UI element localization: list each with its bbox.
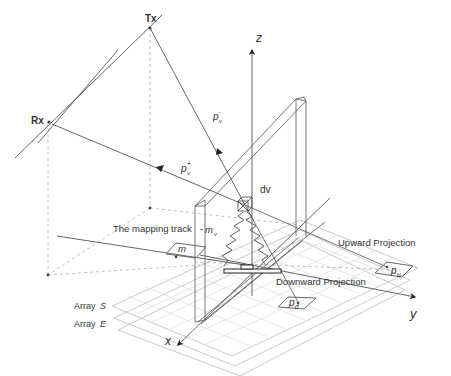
voxel-cube	[238, 197, 252, 211]
wall-structure	[195, 97, 325, 324]
array-s-label: Array S	[74, 301, 106, 311]
svg-text:Array: Array	[74, 319, 96, 329]
z-axis-label: z	[255, 31, 262, 45]
svg-text:The mapping track: The mapping track	[113, 223, 192, 234]
downward-projection-ray	[245, 205, 298, 302]
mapping-track-label: The mapping track - m v	[113, 223, 218, 237]
rx-point	[47, 120, 50, 123]
ray-p-v-plus	[52, 124, 245, 205]
svg-text:+: +	[187, 160, 191, 167]
upward-projection-label: Upward Projection	[338, 237, 416, 248]
svg-text:E: E	[100, 319, 107, 329]
mapping-track-line	[57, 236, 245, 265]
p-v-minus-label: p v -	[212, 109, 223, 124]
svg-text:-: -	[219, 109, 221, 115]
m-point	[175, 256, 178, 259]
arrowhead-incoming	[216, 148, 223, 155]
x-axis-label: x	[164, 334, 172, 348]
ray-p-v-minus	[150, 28, 245, 205]
svg-text:p: p	[288, 297, 295, 308]
tx-ground-point	[149, 207, 152, 210]
y-axis-label: y	[409, 306, 418, 321]
svg-text:S: S	[100, 301, 106, 311]
upward-projection-ray	[245, 205, 387, 267]
svg-text:v: v	[214, 231, 218, 237]
tx-label: Tx	[145, 13, 157, 24]
beam-spread	[222, 212, 268, 266]
dv-label: dv	[260, 184, 271, 195]
svg-text:m: m	[205, 224, 213, 235]
rx-label: Rx	[31, 115, 44, 126]
svg-text:d: d	[295, 303, 299, 310]
antenna-bar	[224, 265, 281, 273]
p-v-plus-label: p v +	[180, 160, 191, 176]
svg-text:-: -	[200, 223, 203, 234]
svg-text:p: p	[212, 111, 219, 122]
svg-text:u: u	[397, 271, 401, 278]
svg-text:v: v	[187, 170, 191, 176]
svg-text:v: v	[219, 118, 223, 124]
p-u-point	[386, 266, 389, 269]
diagram-stage: Tx Rx z y x dv p v - p v + The mapping t…	[0, 0, 451, 376]
antenna-tracks	[15, 15, 162, 158]
array-e-plane	[118, 240, 405, 376]
svg-text:p: p	[390, 265, 397, 276]
m-label: m	[178, 243, 186, 254]
radar-geometry-diagram: Tx Rx z y x dv p v - p v + The mapping t…	[0, 0, 451, 376]
downward-projection-label: Downward Projection	[276, 276, 366, 287]
svg-text:Array: Array	[74, 301, 96, 311]
svg-text:p: p	[180, 163, 187, 174]
array-e-label: Array E	[74, 319, 107, 329]
rx-ground-point	[47, 274, 50, 277]
